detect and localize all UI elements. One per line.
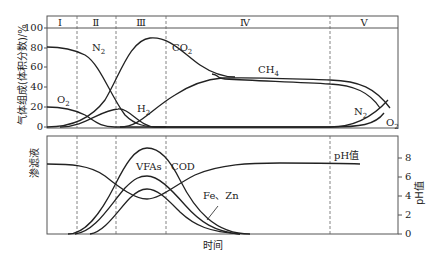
ph-axis: 8 6 4 2 0 [398,152,411,239]
curve-ch4 [120,78,390,127]
top-y-axis-title: 气体组成(体积分数)/% [16,24,28,125]
label-ch4: CH4 [258,64,279,78]
y-tick-80: 80 [30,42,43,53]
label-h2: H2 [137,103,150,117]
ph-tick-8: 8 [405,152,411,163]
x-axis-title: 时间 [203,239,223,251]
label-o2: O2 [57,94,70,108]
top-panel: Ⅰ Ⅱ Ⅲ Ⅳ Ⅴ 100 80 60 40 20 0 气体组成(体积分数)/% [16,16,399,132]
ph-axis-title: pH值 [413,181,425,205]
leachate-axis-title: 渗滤液 [28,148,40,178]
curve-vfas [75,176,240,234]
bottom-panel: 8 6 4 2 0 pH值 渗滤液 VFAs COD Fe、Zn pH值 [28,136,425,239]
y-tick-0: 0 [37,121,43,132]
ph-tick-2: 2 [405,209,411,220]
curve-o2 [47,107,384,127]
ph-tick-6: 6 [405,171,411,182]
phase-label-3: Ⅲ [136,17,146,28]
ph-tick-4: 4 [405,190,411,201]
phase-label-5: Ⅴ [359,17,368,28]
ph-tick-0: 0 [405,228,411,239]
label-o2-end: O2 [386,117,399,131]
phase-label-1: Ⅰ [58,17,62,28]
y-tick-40: 40 [30,81,43,92]
label-co2: CO2 [172,42,192,56]
phase-label-2: Ⅱ [93,17,100,28]
y-tick-60: 60 [30,61,43,72]
phase-label-4: Ⅳ [240,17,251,28]
label-vfas: VFAs [135,161,162,172]
label-n2-end: N2 [354,106,367,120]
fe-zn-leader [207,206,218,220]
label-cod: COD [171,161,195,172]
label-n2: N2 [92,42,105,56]
y-tick-20: 20 [30,101,43,112]
landfill-stage-chart: Ⅰ Ⅱ Ⅲ Ⅳ Ⅴ 100 80 60 40 20 0 气体组成(体积分数)/% [0,0,433,265]
label-fe-zn: Fe、Zn [203,190,239,201]
label-ph: pH值 [334,149,359,161]
